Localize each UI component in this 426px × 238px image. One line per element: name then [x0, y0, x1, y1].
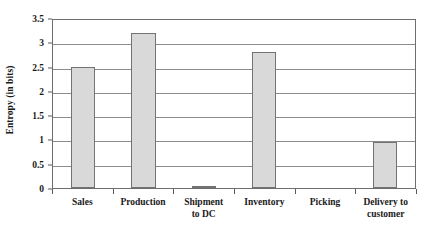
- y-axis-title: Entropy (in bits): [0, 0, 20, 200]
- x-axis-category-label-line: customer: [356, 208, 415, 220]
- x-axis-tick-mark: [234, 189, 235, 194]
- x-axis-tick-mark: [416, 189, 417, 194]
- x-axis-category-label-line: Inventory: [235, 196, 294, 208]
- bar[interactable]: [373, 142, 397, 188]
- y-axis-title-text: Entropy (in bits): [5, 65, 15, 134]
- x-axis-category-label: Picking: [295, 196, 356, 238]
- bar-slot: [53, 20, 113, 188]
- y-axis-tick-label: 2.5: [32, 63, 44, 73]
- x-axis-category-label-line: to DC: [174, 208, 233, 220]
- bar-slot: [174, 20, 234, 188]
- x-axis-tick-mark: [355, 189, 356, 194]
- y-axis-tick-label: 1: [39, 135, 44, 145]
- bar[interactable]: [192, 186, 216, 188]
- x-axis-tick-mark: [173, 189, 174, 194]
- bars-container: [53, 20, 415, 188]
- bar-chart: Entropy (in bits) 3.532.521.510.50 Sales…: [0, 0, 426, 238]
- x-axis-tick-mark: [52, 189, 53, 194]
- x-axis-category-label: Inventory: [234, 196, 295, 238]
- bar-slot: [234, 20, 294, 188]
- x-axis-category-label: Production: [113, 196, 174, 238]
- plot-area: [52, 19, 416, 189]
- y-axis-tick-label: 2: [39, 87, 44, 97]
- bar-slot: [113, 20, 173, 188]
- bar-slot: [355, 20, 415, 188]
- x-axis-category-label-line: Delivery to: [356, 196, 415, 208]
- y-axis-tick-label: 3: [39, 38, 44, 48]
- x-axis-category-label: Delivery tocustomer: [355, 196, 416, 238]
- y-axis-tick-labels: 3.532.521.510.50: [18, 19, 48, 189]
- x-axis-category-label: Shipmentto DC: [173, 196, 234, 238]
- bar[interactable]: [71, 67, 95, 188]
- x-axis-tick-marks: [52, 189, 416, 195]
- y-axis-tick-label: 3.5: [32, 14, 44, 24]
- bar[interactable]: [131, 33, 155, 188]
- x-axis-category-label-line: Picking: [296, 196, 355, 208]
- bar[interactable]: [252, 52, 276, 188]
- x-axis-labels: SalesProductionShipmentto DCInventoryPic…: [52, 196, 416, 238]
- x-axis-category-label-line: Shipment: [174, 196, 233, 208]
- x-axis-category-label-line: Sales: [53, 196, 112, 208]
- y-axis-tick-label: 0: [39, 184, 44, 194]
- x-axis-tick-mark: [295, 189, 296, 194]
- x-axis-category-label: Sales: [52, 196, 113, 238]
- y-axis-tick-label: 0.5: [32, 160, 44, 170]
- y-axis-tick-label: 1.5: [32, 111, 44, 121]
- x-axis-category-label-line: Production: [114, 196, 173, 208]
- bar-slot: [294, 20, 354, 188]
- x-axis-tick-mark: [113, 189, 114, 194]
